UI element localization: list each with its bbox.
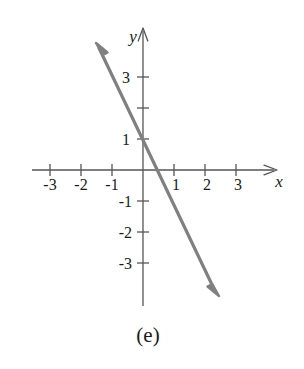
y-tick-label-pos3: 3 (122, 69, 130, 86)
x-tick-label-neg1: -1 (105, 176, 118, 193)
graph-figure: -3 -2 -1 1 2 3 3 1 -1 -2 -3 y x (e) (0, 0, 304, 369)
y-axis-label: y (127, 27, 137, 46)
x-axis-label: x (274, 172, 283, 191)
x-tick-label-neg2: -2 (74, 176, 87, 193)
y-tick-label-neg2: -2 (119, 224, 132, 241)
cartesian-plot: -3 -2 -1 1 2 3 3 1 -1 -2 -3 y x (e) (0, 0, 304, 369)
x-tick-label-pos1: 1 (172, 176, 180, 193)
x-tick-label-pos2: 2 (203, 176, 211, 193)
x-tick-label-neg3: -3 (43, 176, 56, 193)
y-tick-label-neg1: -1 (119, 193, 132, 210)
x-tick-label-pos3: 3 (234, 176, 242, 193)
y-tick-label-pos1: 1 (122, 131, 130, 148)
figure-caption: (e) (136, 323, 159, 347)
y-tick-label-neg3: -3 (119, 255, 132, 272)
